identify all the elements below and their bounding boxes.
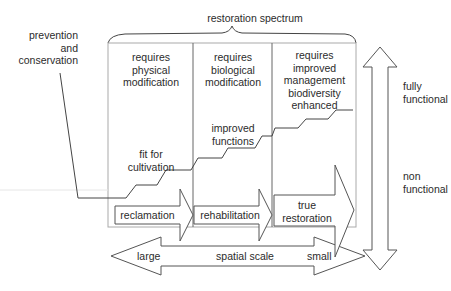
functionality-arrow [363,47,397,270]
column-3-header: requires improved management biodiversit… [273,49,356,112]
fit-for-cultivation-label: fit for cultivation [110,148,192,173]
spectrum-brace [108,26,356,43]
large-label: large [137,250,160,263]
reclamation-label: reclamation [115,209,180,222]
improved-functions-label: improved functions [194,122,272,147]
fully-functional-label: fully functional [403,80,448,105]
spatial-scale-label: spatial scale [190,250,300,263]
prevention-label: prevention and conservation [2,29,78,67]
column-1-header: requires physical modification [110,51,192,89]
column-2-header: requires biological modification [194,51,272,89]
spectrum-title: restoration spectrum [180,12,330,25]
small-label: small [307,250,332,263]
true-restoration-label: true restoration [274,199,340,224]
non-functional-label: non functional [403,170,448,195]
rehabilitation-label: rehabilitation [194,209,266,222]
